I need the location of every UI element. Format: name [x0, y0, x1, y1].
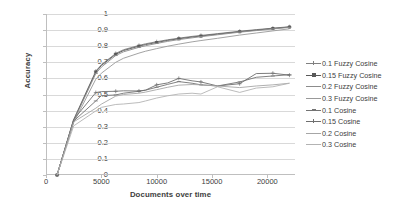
- legend-swatch: [306, 94, 321, 103]
- legend-item[interactable]: 0.2 Fuzzy Cosine: [306, 81, 406, 93]
- series-marker: [177, 76, 181, 80]
- legend-label: 0.2 Fuzzy Cosine: [322, 83, 378, 90]
- series-marker: [287, 73, 291, 77]
- legend-swatch: [306, 129, 321, 138]
- series-line: [57, 27, 289, 175]
- x-tick-mark: [267, 175, 268, 178]
- series-marker: [137, 89, 141, 93]
- x-tick-mark: [101, 175, 102, 178]
- legend-label: 0.1 Fuzzy Cosine: [322, 60, 378, 67]
- legend-label: 0.15 Cosine: [322, 118, 360, 125]
- series-line: [57, 27, 289, 175]
- series-line: [57, 75, 289, 175]
- series-marker: [114, 89, 118, 93]
- x-tick-label: 10000: [135, 178, 179, 186]
- legend-label: 0.1 Cosine: [322, 107, 356, 114]
- x-tick-mark: [212, 175, 213, 178]
- series-line: [57, 29, 289, 175]
- legend-swatch: [306, 59, 321, 68]
- legend-cross-marker-icon: [312, 61, 316, 65]
- legend-label: 0.2 Cosine: [322, 130, 356, 137]
- legend-item[interactable]: 0.2 Cosine: [306, 128, 406, 140]
- legend-square-marker-icon: [312, 73, 316, 77]
- legend-swatch: [306, 117, 321, 126]
- legend-label: 0.3 Cosine: [322, 141, 356, 148]
- series-2: [55, 27, 291, 175]
- x-tick-label: 15000: [190, 178, 234, 186]
- series-1: [56, 26, 291, 177]
- series-3: [57, 29, 289, 175]
- legend-line: [306, 133, 321, 134]
- x-tick-mark: [157, 175, 158, 178]
- legend-item[interactable]: 0.1 Cosine: [306, 104, 406, 116]
- legend-line: [306, 144, 321, 145]
- series-0: [55, 25, 291, 177]
- legend-item[interactable]: 0.3 Fuzzy Cosine: [306, 93, 406, 105]
- legend-label: 0.15 Fuzzy Cosine: [322, 72, 382, 79]
- x-tick-label: 0: [24, 178, 68, 186]
- series-line: [57, 27, 289, 175]
- x-tick-mark: [46, 175, 47, 178]
- legend-cross-marker-icon: [312, 119, 316, 123]
- legend-dash-marker-icon: [312, 108, 316, 112]
- legend-swatch: [306, 82, 321, 91]
- legend-label: 0.3 Fuzzy Cosine: [322, 95, 378, 102]
- series-marker: [271, 71, 275, 75]
- chart-legend: 0.1 Fuzzy Cosine0.15 Fuzzy Cosine0.2 Fuz…: [306, 58, 406, 151]
- legend-item[interactable]: 0.3 Cosine: [306, 139, 406, 151]
- x-axis-title: Documents over time: [46, 190, 295, 199]
- series-marker: [199, 80, 203, 84]
- legend-item[interactable]: 0.1 Fuzzy Cosine: [306, 58, 406, 70]
- x-tick-label: 5000: [79, 178, 123, 186]
- accuracy-line-chart: Accuracy 00.10.20.30.40.50.60.70.80.91 0…: [0, 0, 408, 214]
- legend-line: [306, 98, 321, 99]
- series-marker: [155, 83, 159, 87]
- plot-area: [46, 14, 295, 175]
- legend-dash-marker-icon: [312, 84, 316, 88]
- series-layer: [46, 14, 295, 175]
- series-5: [55, 71, 291, 177]
- legend-swatch: [306, 140, 321, 149]
- legend-swatch: [306, 71, 321, 80]
- y-axis-title: Accuracy: [23, 42, 32, 100]
- legend-item[interactable]: 0.15 Fuzzy Cosine: [306, 70, 406, 82]
- legend-swatch: [306, 106, 321, 115]
- legend-item[interactable]: 0.15 Cosine: [306, 116, 406, 128]
- x-tick-label: 20000: [245, 178, 289, 186]
